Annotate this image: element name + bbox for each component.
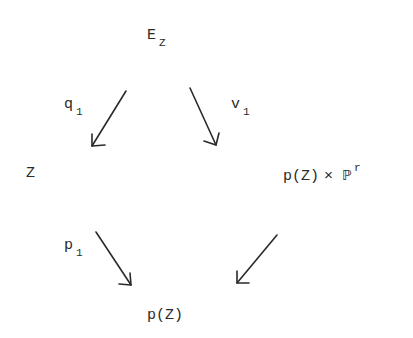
arrow-p1 [96, 232, 131, 285]
arrow-q1 [92, 91, 126, 146]
arrow-v1 [190, 88, 219, 145]
arrows-layer [0, 0, 413, 338]
arrow-projection [237, 235, 277, 283]
